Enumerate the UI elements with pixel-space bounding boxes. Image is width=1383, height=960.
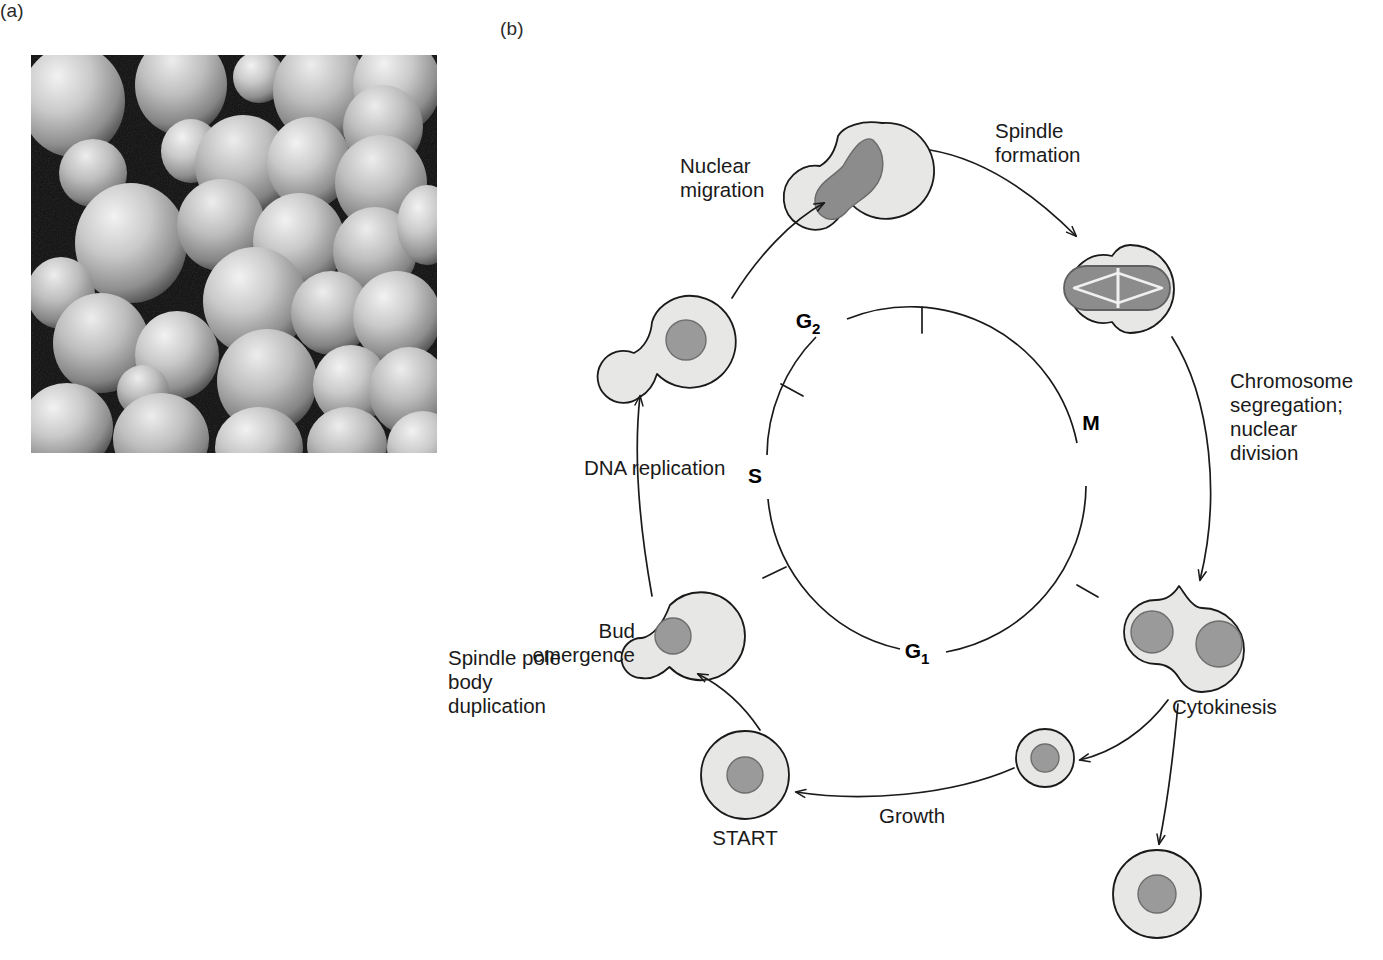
arrow-cytokinesis-daughter: [1080, 700, 1168, 760]
mother-cell: [1113, 850, 1201, 938]
spindle-formation-label-line1: Spindle: [995, 119, 1063, 142]
nuclear-migration-label-line1: Nuclear: [680, 154, 751, 177]
phase-label-g2: G2: [796, 309, 821, 337]
tick-lower-right: [1077, 585, 1098, 597]
chromosome-segregation-label-line3: nuclear: [1230, 417, 1297, 440]
growth-label: Growth: [879, 804, 945, 827]
cytokinesis-label: Cytokinesis: [1172, 695, 1277, 718]
yeast-micrograph-panel: [31, 55, 437, 453]
arrow-growth: [796, 768, 1014, 797]
arc-g2-to-m: [847, 307, 1077, 443]
divided-nuclei-cell: [1124, 586, 1244, 692]
dna-replication-cell: [598, 296, 736, 403]
arrow-chromosome-segregation: [1172, 337, 1211, 580]
arc-m-to-g1: [946, 486, 1086, 652]
chromosome-segregation-label-line2: segregation;: [1230, 393, 1343, 416]
yeast-cell-cycle-diagram: G2 S G1 M START Bud emergence: [430, 40, 1383, 960]
arrow-cytokinesis-mother: [1159, 704, 1178, 844]
start-label: START: [712, 826, 778, 849]
chromosome-segregation-label-line4: division: [1230, 441, 1298, 464]
panel-a-label: (a): [0, 0, 24, 22]
phase-label-s: S: [748, 464, 762, 487]
phase-labels: G2 S G1 M: [748, 309, 1100, 667]
daughter-cell: [1016, 729, 1074, 787]
start-cell: [701, 731, 789, 819]
cell-cycle-svg: G2 S G1 M START Bud emergence: [430, 40, 1383, 960]
bud-emergence-label-line1: Bud: [599, 619, 635, 642]
tick-lower-left: [763, 567, 786, 578]
spindle-pole-body-label-line3: duplication: [448, 694, 546, 717]
cell-cycle-phase-circle: [767, 307, 1086, 652]
tick-upper-left: [781, 384, 803, 396]
phase-label-m: M: [1082, 411, 1100, 434]
spindle-pole-body-label-line2: body: [448, 670, 493, 693]
yeast-sem-micrograph: [31, 55, 437, 453]
phase-label-g1: G1: [905, 639, 930, 667]
panel-b-label: (b): [500, 18, 524, 40]
transition-labels: Nuclear migration Spindle formation Chro…: [448, 119, 1353, 827]
arc-s-to-g2: [767, 337, 816, 455]
dna-replication-label: DNA replication: [584, 456, 725, 479]
arc-g1-to-s: [768, 499, 900, 649]
arrow-dna-replication: [637, 396, 652, 596]
spindle-formation-label-line2: formation: [995, 143, 1080, 166]
phase-tick-marks: [763, 307, 1098, 597]
spindle-cell: [1064, 245, 1174, 333]
spindle-pole-body-label-line1: Spindle pole: [448, 646, 561, 669]
arrow-start-to-bud: [698, 674, 760, 730]
nuclear-migration-label-line2: migration: [680, 178, 764, 201]
chromosome-segregation-label-line1: Chromosome: [1230, 369, 1353, 392]
